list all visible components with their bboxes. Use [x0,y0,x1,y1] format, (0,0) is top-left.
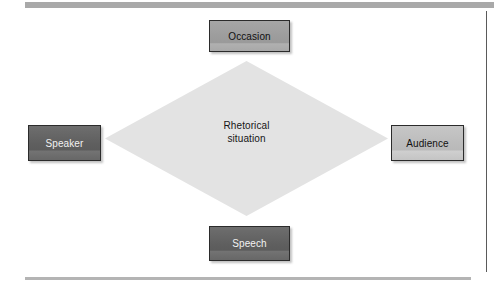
figure-canvas: Rhetorical situation Occasion Speaker Au… [0,0,494,289]
rhetorical-situation-label: Rhetorical situation [105,119,388,145]
node-occasion-label: Occasion [228,31,271,42]
node-speaker-label: Speaker [46,138,84,149]
rhetorical-situation-label-line2: situation [105,132,388,145]
rhetorical-situation-label-line1: Rhetorical [105,119,388,132]
node-speaker[interactable]: Speaker [28,125,101,161]
page-rule-bottom [25,277,471,280]
node-audience[interactable]: Audience [391,125,464,161]
node-speech-label: Speech [232,238,267,249]
node-speech[interactable]: Speech [209,226,290,261]
node-audience-label: Audience [406,138,449,149]
node-occasion[interactable]: Occasion [209,20,290,52]
page-rule-top [25,2,494,8]
page-frame-right-line [486,11,487,272]
